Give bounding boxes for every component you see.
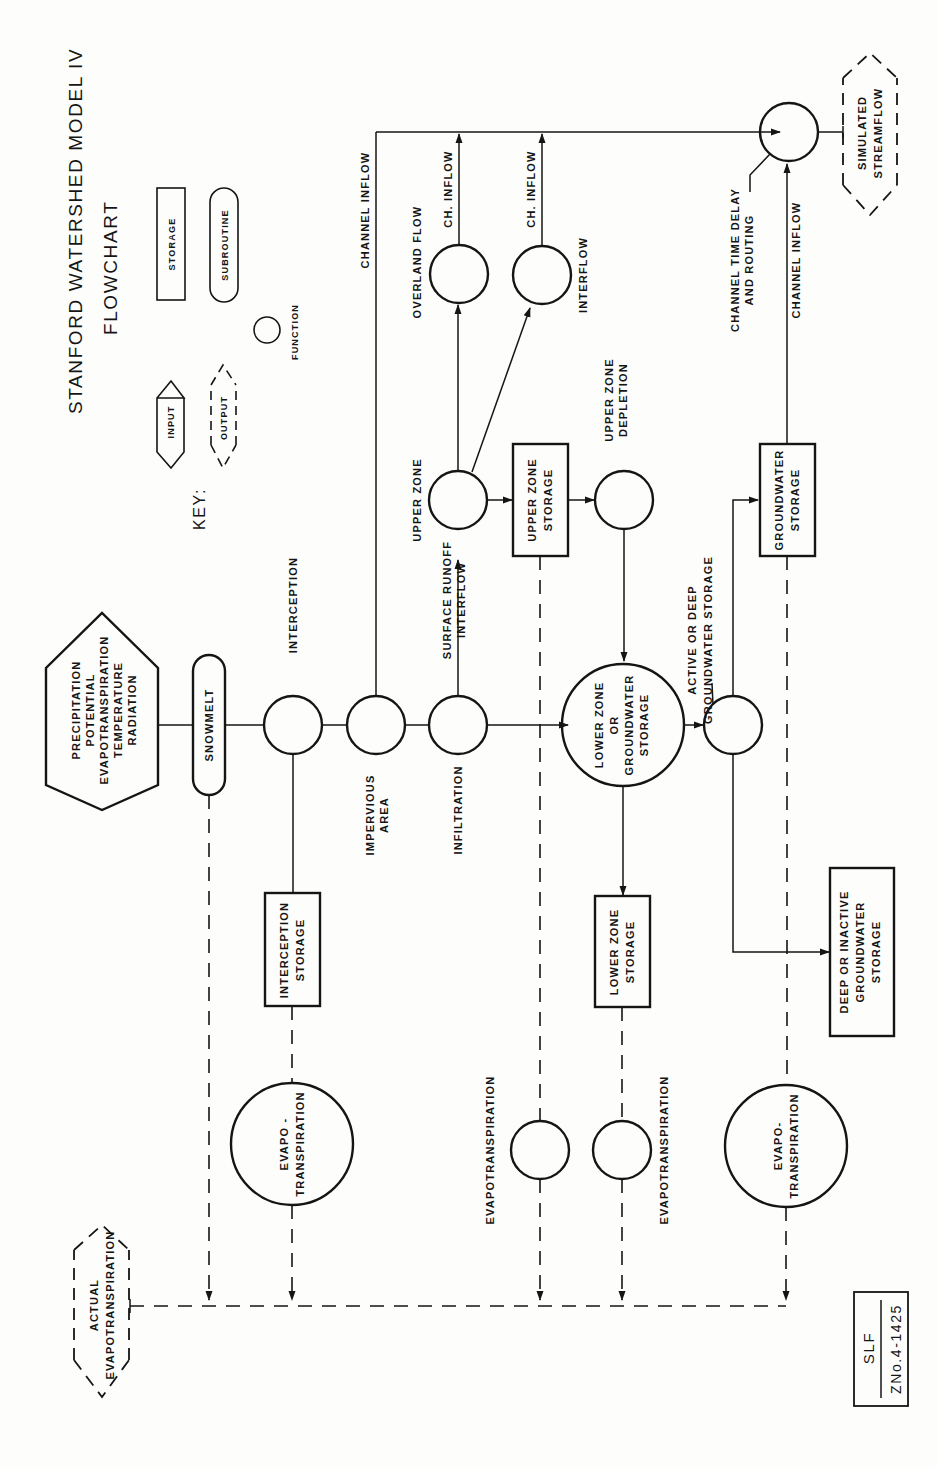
svg-text:STORAGE: STORAGE: [542, 469, 554, 532]
legend-function-label: FUNCTION: [290, 304, 300, 360]
legend-input: INPUT: [157, 381, 184, 468]
lower-zone-node: LOWER ZONE OR GROUNDWATER STORAGE: [562, 664, 684, 786]
svg-text:STORAGE: STORAGE: [789, 469, 801, 532]
legend-label: KEY:: [191, 488, 208, 530]
svg-text:CHANNEL INFLOW: CHANNEL INFLOW: [790, 202, 802, 319]
infiltration-label: INFILTRATION: [452, 765, 464, 854]
actual-evapotranspiration-output: ACTUAL EVAPOTRANSPIRATION: [74, 1225, 129, 1397]
evapotranspiration-mid1-node: EVAPOTRANSPIRATION: [484, 1076, 569, 1225]
svg-text:LOWER ZONE: LOWER ZONE: [593, 682, 605, 769]
svg-text:POTENTIAL: POTENTIAL: [84, 673, 96, 746]
svg-text:ACTIVE OR DEEP: ACTIVE OR DEEP: [686, 585, 698, 695]
legend-input-label: INPUT: [166, 406, 176, 439]
svg-text:EVAPOTRANSPIRATION: EVAPOTRANSPIRATION: [658, 1076, 670, 1225]
legend-function: FUNCTION: [254, 304, 300, 360]
surface-runoff-label: SURFACE RUNOFF INTERFLOW: [441, 541, 467, 659]
svg-text:ZNo.4-1425: ZNo.4-1425: [888, 1304, 904, 1394]
svg-text:PRECIPITATION: PRECIPITATION: [70, 661, 82, 760]
impervious-area-node: IMPERVIOUS AREA: [347, 696, 405, 855]
svg-text:UPPER ZONE: UPPER ZONE: [526, 458, 538, 542]
svg-text:GROUNDWATER: GROUNDWATER: [854, 902, 866, 1003]
legend-output: OUTPUT: [211, 365, 236, 468]
evapotranspiration-right-node: EVAPO- TRANSPIRATION: [725, 1085, 847, 1207]
channel-routing-node: CHANNEL TIME DELAY AND ROUTING: [729, 103, 818, 332]
svg-text:SNOWMELT: SNOWMELT: [203, 689, 215, 762]
groundwater-storage-node: GROUNDWATER STORAGE: [760, 444, 815, 556]
input-text: PRECIPITATION POTENTIAL EVAPOTRANSPIRATI…: [70, 636, 138, 785]
svg-text:STORAGE: STORAGE: [624, 921, 636, 984]
svg-text:UPPER ZONE: UPPER ZONE: [603, 358, 615, 442]
legend-subroutine-label: SUBROUTINE: [220, 209, 230, 281]
diagram-subtitle: FLOWCHART: [100, 201, 121, 335]
evapotranspiration-mid2-node: EVAPOTRANSPIRATION: [593, 1076, 670, 1225]
svg-text:DEEP OR INACTIVE: DEEP OR INACTIVE: [838, 891, 850, 1014]
svg-text:SLF: SLF: [860, 1332, 877, 1364]
svg-text:OVERLAND FLOW: OVERLAND FLOW: [411, 206, 423, 319]
upper-zone-storage-node: UPPER ZONE STORAGE: [513, 444, 568, 556]
evapotranspiration-left-node: EVAPO - TRANSPIRATION: [231, 1083, 353, 1205]
svg-text:AND ROUTING: AND ROUTING: [743, 215, 755, 306]
svg-text:STORAGE: STORAGE: [638, 694, 650, 757]
svg-text:GROUNDWATER: GROUNDWATER: [623, 675, 635, 776]
svg-text:SIMULATED: SIMULATED: [856, 96, 868, 170]
interception-storage-node: INTERCEPTION STORAGE: [265, 893, 320, 1006]
deep-inactive-groundwater-node: DEEP OR INACTIVE GROUNDWATER STORAGE: [830, 868, 894, 1036]
svg-text:RADIATION: RADIATION: [126, 674, 138, 745]
svg-text:OR: OR: [608, 716, 620, 735]
simulated-streamflow-output: SIMULATED STREAMFLOW: [843, 53, 897, 215]
legend-storage: STORAGE: [157, 188, 185, 300]
svg-text:EVAPOTRANSPIRATION: EVAPOTRANSPIRATION: [98, 636, 110, 785]
svg-text:STORAGE: STORAGE: [870, 921, 882, 984]
svg-text:SURFACE RUNOFF: SURFACE RUNOFF: [441, 541, 453, 659]
svg-text:EVAPO-: EVAPO-: [772, 1122, 784, 1171]
svg-text:CH. INFLOW: CH. INFLOW: [442, 150, 454, 227]
svg-text:TRANSPIRATION: TRANSPIRATION: [788, 1093, 800, 1198]
svg-text:STORAGE: STORAGE: [294, 919, 306, 982]
svg-text:DEPLETION: DEPLETION: [617, 363, 629, 437]
interception-node: INTERCEPTION: [264, 557, 322, 754]
svg-text:CH. INFLOW: CH. INFLOW: [525, 150, 537, 227]
legend-output-label: OUTPUT: [219, 396, 229, 440]
infiltration-node: INFILTRATION: [429, 696, 487, 855]
snowmelt-node: SNOWMELT: [193, 655, 225, 795]
svg-text:INTERFLOW: INTERFLOW: [455, 562, 467, 638]
title-block: STANFORD WATERSHED MODEL IV FLOWCHART: [65, 48, 121, 414]
svg-text:TEMPERATURE: TEMPERATURE: [112, 662, 124, 758]
svg-text:STREAMFLOW: STREAMFLOW: [872, 88, 884, 179]
flowchart-canvas: STANFORD WATERSHED MODEL IV FLOWCHART KE…: [0, 0, 937, 1468]
upper-zone-label: UPPER ZONE: [411, 458, 423, 542]
svg-text:GROUNDWATER: GROUNDWATER: [773, 450, 785, 551]
svg-text:EVAPO -: EVAPO -: [278, 1118, 290, 1171]
channel-inflow-top-label: CHANNEL INFLOW: [359, 152, 371, 269]
upper-zone-node: UPPER ZONE: [411, 458, 487, 542]
svg-text:CHANNEL TIME DELAY: CHANNEL TIME DELAY: [729, 188, 741, 332]
input-node: PRECIPITATION POTENTIAL EVAPOTRANSPIRATI…: [46, 613, 158, 810]
svg-text:EVAPOTRANSPIRATION: EVAPOTRANSPIRATION: [104, 1231, 116, 1380]
svg-text:ACTUAL: ACTUAL: [88, 1279, 100, 1331]
upper-zone-depletion-node: UPPER ZONE DEPLETION: [595, 358, 653, 529]
svg-text:EVAPOTRANSPIRATION: EVAPOTRANSPIRATION: [484, 1076, 496, 1225]
legend: KEY: INPUT STORAGE OUTPUT SUBROUTINE FUN…: [157, 188, 300, 530]
diagram-title: STANFORD WATERSHED MODEL IV: [65, 48, 86, 414]
svg-text:LOWER ZONE: LOWER ZONE: [608, 909, 620, 996]
interflow-node: INTERFLOW: [513, 237, 589, 313]
svg-text:INTERFLOW: INTERFLOW: [577, 237, 589, 313]
svg-text:AREA: AREA: [378, 797, 390, 833]
legend-storage-label: STORAGE: [167, 218, 177, 271]
legend-subroutine: SUBROUTINE: [210, 188, 238, 302]
svg-text:TRANSPIRATION: TRANSPIRATION: [294, 1091, 306, 1196]
interception-label: INTERCEPTION: [287, 557, 299, 653]
svg-text:IMPERVIOUS: IMPERVIOUS: [364, 775, 376, 856]
lower-zone-storage-node: LOWER ZONE STORAGE: [595, 896, 650, 1007]
svg-text:INTERCEPTION: INTERCEPTION: [278, 902, 290, 998]
svg-text:GROUNDWATER STORAGE: GROUNDWATER STORAGE: [702, 556, 714, 724]
drawing-stamp: SLF ZNo.4-1425: [854, 1292, 908, 1406]
